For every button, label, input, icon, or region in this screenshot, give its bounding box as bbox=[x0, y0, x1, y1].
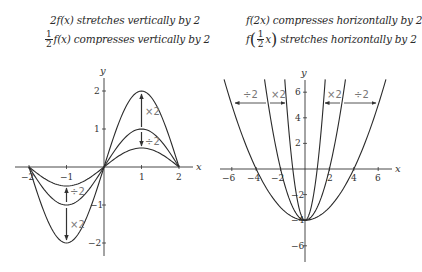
right-x-tick-label: −6 bbox=[222, 173, 236, 183]
right-y-axis-label: y bbox=[300, 67, 307, 78]
op-label-stretch: ×2 bbox=[70, 219, 85, 230]
op-label-left-outer: ÷2 bbox=[243, 89, 258, 100]
left-x-tick-label: −1 bbox=[60, 172, 73, 182]
left-x-tick-label: 1 bbox=[139, 172, 145, 182]
left-y-tick-label: −2 bbox=[88, 238, 101, 248]
left-y-tick-label: 2 bbox=[94, 86, 100, 96]
right-x-tick-label: 4 bbox=[351, 173, 357, 183]
left-x-tick-label: 2 bbox=[176, 172, 182, 182]
op-label-right-inner: ×2 bbox=[327, 89, 342, 100]
right-y-tick-label: 6 bbox=[295, 87, 301, 97]
left-y-tick-label: 1 bbox=[94, 124, 100, 134]
right-x-tick-label: 6 bbox=[375, 173, 381, 183]
right-y-tick-label: 4 bbox=[295, 113, 301, 123]
op-label-right-outer: ÷2 bbox=[354, 89, 369, 100]
right-y-tick-label: −6 bbox=[291, 241, 305, 251]
right-y-tick-label: −2 bbox=[291, 190, 304, 200]
left-graph: x y −2 −1 1 2 2 1 −1 −2 ×2 ÷2 ÷2 ×2 bbox=[15, 65, 202, 256]
op-label-stretch: ×2 bbox=[145, 106, 160, 117]
left-x-axis-label: x bbox=[196, 161, 202, 172]
right-y-tick-label: 2 bbox=[295, 138, 301, 148]
op-label-compress: ÷2 bbox=[145, 136, 160, 147]
right-graph: x y −6 −4 −2 2 4 6 6 4 2 −2 −4 −6 bbox=[220, 67, 401, 262]
op-label-left-inner: ×2 bbox=[271, 89, 286, 100]
op-label-compress: ÷2 bbox=[70, 186, 85, 197]
right-x-axis-label: x bbox=[395, 163, 401, 174]
left-y-axis-label: y bbox=[99, 65, 106, 76]
